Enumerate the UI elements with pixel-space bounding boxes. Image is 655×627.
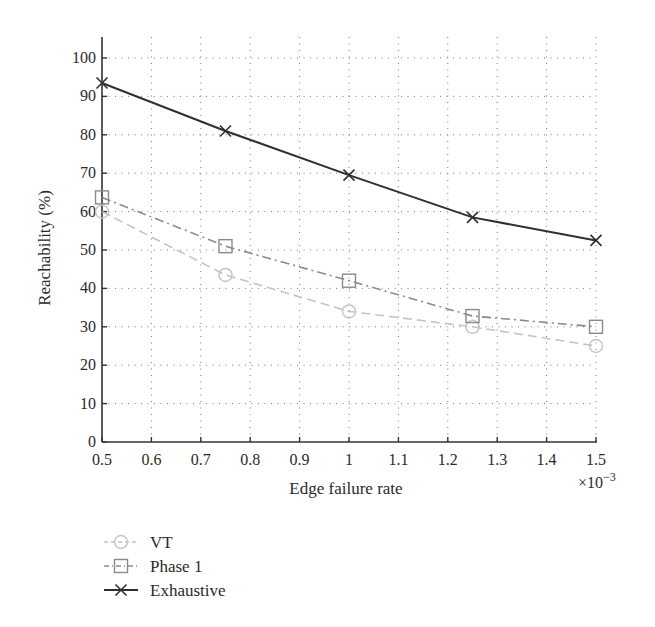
legend-item-exhaustive: Exhaustive [104, 581, 226, 600]
data-series [96, 77, 603, 352]
x-tick-label: 1.3 [487, 451, 507, 468]
phase-1-square-marker [219, 240, 232, 253]
y-axis-label: Reachability (%) [35, 190, 54, 306]
vt-circle-marker [219, 268, 232, 281]
x-tick-label: 0.6 [141, 451, 161, 468]
grid-lines [102, 37, 596, 442]
x-tick-label: 1.5 [586, 451, 606, 468]
legend-item-vt: VT [104, 533, 173, 552]
x-tick-label: 0.7 [191, 451, 211, 468]
x-tick-label: 1.2 [438, 451, 458, 468]
x-tick-label: 1.4 [537, 451, 557, 468]
legend-label-phase-1: Phase 1 [150, 557, 202, 576]
y-tick-label: 90 [80, 87, 96, 104]
x-tick-label: 1.1 [388, 451, 408, 468]
x-tick-label: 1 [345, 451, 353, 468]
x-tick-label: 0.5 [92, 451, 112, 468]
y-tick-label: 50 [80, 241, 96, 258]
legend-label-vt: VT [150, 533, 173, 552]
x-multiplier-base: ×10 [578, 474, 603, 491]
legend-label-exhaustive: Exhaustive [150, 581, 226, 600]
series-line-exhaustive [102, 83, 596, 240]
y-tick-label: 40 [80, 279, 96, 296]
x-tick-label: 0.9 [290, 451, 310, 468]
line-chart: 0102030405060708090100 0.50.60.70.80.911… [0, 0, 655, 627]
y-tick-label: 0 [88, 433, 96, 450]
series-line-phase-1 [102, 197, 596, 326]
y-tick-label: 70 [80, 164, 96, 181]
x-axis-multiplier: ×10−3 [578, 470, 616, 491]
y-tick-label: 30 [80, 318, 96, 335]
legend-item-phase-1: Phase 1 [104, 557, 202, 576]
y-tick-label: 20 [80, 356, 96, 373]
y-tick-label: 60 [80, 203, 96, 220]
x-multiplier-exponent: −3 [603, 470, 616, 484]
y-tick-label: 100 [72, 49, 96, 66]
series-line-vt [102, 212, 596, 346]
exhaustive-x-marker [344, 170, 355, 181]
y-tick-label: 80 [80, 126, 96, 143]
legend: VTPhase 1Exhaustive [104, 533, 226, 600]
y-tick-label: 10 [80, 395, 96, 412]
x-tick-label: 0.8 [240, 451, 260, 468]
x-axis-label: Edge failure rate [289, 479, 402, 498]
